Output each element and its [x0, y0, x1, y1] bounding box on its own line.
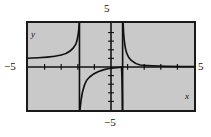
curve-middle-lower-branch	[122, 67, 123, 110]
curve-left-branch	[28, 23, 79, 58]
graph-figure: 5 −5 −5 5 y x	[0, 0, 211, 137]
plot-area	[26, 21, 196, 112]
x-axis-name-label: x	[185, 92, 189, 101]
y-axis-name-label: y	[31, 30, 35, 39]
curve-right-branch	[123, 23, 194, 67]
x-axis-max-label: 5	[198, 61, 204, 72]
x-axis-min-label: −5	[4, 61, 16, 72]
y-axis-max-label: 5	[104, 3, 110, 14]
y-axis-min-label: −5	[104, 117, 116, 128]
plot-canvas	[28, 23, 194, 110]
curve-middle-branch	[80, 67, 122, 110]
